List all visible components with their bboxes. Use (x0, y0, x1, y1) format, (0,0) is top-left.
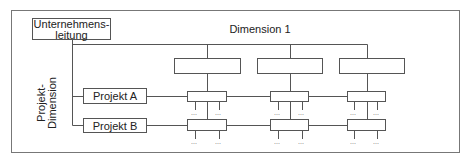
ellipsis-a3-right: ... (373, 109, 379, 116)
ellipsis-a1-left: ... (191, 109, 197, 116)
dimension1-unit-1 (174, 58, 241, 74)
dimension1-unit-2 (257, 58, 323, 74)
matrix-cell-a2 (270, 91, 309, 102)
matrix-cell-b1 (187, 119, 227, 131)
matrix-cell-b3 (347, 119, 386, 131)
ellipsis-b2-right: ... (298, 138, 304, 145)
project-a-node: Projekt A (83, 88, 147, 104)
ellipsis-a3-left: ... (350, 109, 356, 116)
ellipsis-b1-left: ... (191, 138, 197, 145)
matrix-cell-a3 (347, 91, 386, 102)
ellipsis-a2-right: ... (298, 109, 304, 116)
ellipsis-a2-left: ... (274, 109, 280, 116)
dimension1-unit-3 (339, 58, 405, 74)
top-management-label-line2: leitung (33, 30, 110, 41)
ellipsis-b1-right: ... (215, 138, 221, 145)
project-b-label: Projekt B (93, 120, 138, 132)
project-a-label: Projekt A (93, 90, 137, 102)
ellipsis-b2-left: ... (274, 138, 280, 145)
project-b-node: Projekt B (83, 118, 147, 133)
ellipsis-a1-right: ... (215, 109, 221, 116)
matrix-cell-a1 (187, 91, 227, 102)
top-management-node: Unternehmens- leitung (32, 18, 111, 40)
matrix-cell-b2 (270, 119, 309, 131)
dimension1-label: Dimension 1 (210, 24, 310, 35)
ellipsis-b3-right: ... (373, 138, 379, 145)
ellipsis-b3-left: ... (350, 138, 356, 145)
project-dimension-label: Projekt-Dimension (36, 63, 58, 143)
